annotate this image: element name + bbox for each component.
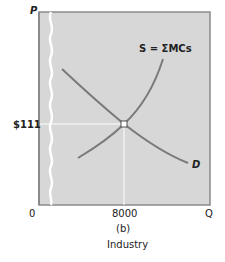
demand-label: D (192, 159, 200, 170)
quantity-tick-label: 8000 (112, 208, 137, 219)
equilibrium-point (121, 121, 127, 127)
p-axis-label: P (30, 5, 38, 16)
q-axis-label: Q (205, 208, 213, 219)
supply-label: S = ΣMCs (139, 43, 192, 54)
panel-title: Industry (107, 239, 148, 250)
price-tick-label: $111 (13, 119, 41, 130)
panel-caption: (b) (116, 223, 130, 234)
origin-label: 0 (29, 208, 35, 219)
industry-supply-demand-chart: P S = ΣMCs $111 D 0 8000 Q (b) Industry (0, 0, 225, 262)
